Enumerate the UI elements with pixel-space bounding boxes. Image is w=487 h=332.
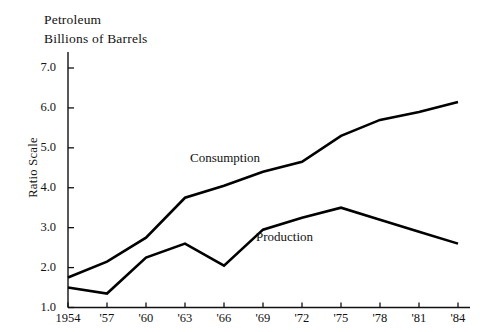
x-axis-ticks [68,303,458,308]
data-series-group [68,102,458,294]
series-annotation-production: Production [256,229,313,245]
y-axis-ticks [68,68,74,308]
series-line-consumption [68,102,458,278]
chart-figure: Petroleum Billions of Barrels Ratio Scal… [0,0,487,332]
chart-plot-area [0,0,487,332]
axis-lines [68,52,470,308]
series-annotation-consumption: Consumption [190,150,260,166]
